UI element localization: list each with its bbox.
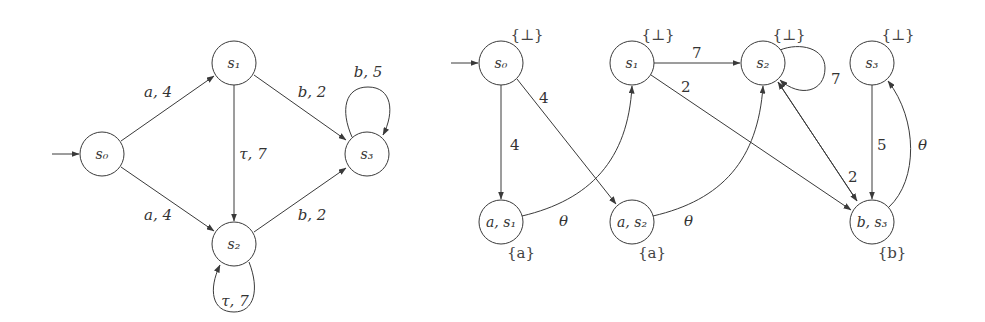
edge-s0-as2 [517,79,616,204]
node-s1: s₁ [212,41,256,85]
edge-label: 4 [539,89,549,107]
left-graph: s₀ s₁ s₂ s₃ a, 4 a, 4 τ, 7 b, 2 b, 2 b, … [52,41,390,312]
node-label: b, s₃ [857,214,888,230]
node-label: a, s₂ [617,214,647,230]
node-label: s₃ [361,146,374,162]
edge-bs3-s3 [888,81,911,207]
edge-label: b, 2 [298,83,327,101]
node-annotation: {a} [507,244,535,262]
node-a-s2: a, s₂ {a} [610,200,666,262]
node-annotation: {b} [878,244,907,262]
right-graph: s₀ {⊥} s₁ {⊥} s₂ {⊥} s₃ {⊥} a, s₁ {a} a,… [451,26,927,262]
node-annotation: {⊥} [510,26,543,44]
edge-s2-loop [780,47,825,91]
node-s2: s₂ [212,222,256,266]
node-annotation: {⊥} [772,26,805,44]
edge-label: τ, 7 [239,145,267,163]
edge-label: 7 [692,44,702,62]
node-s3: s₃ {⊥} [850,26,915,85]
edge-label: a, 4 [144,206,172,224]
node-annotation: {a} [638,244,666,262]
node-annotation: {⊥} [641,26,674,44]
edge-label: b, 2 [298,206,327,224]
edge-as2-s2 [653,86,763,216]
node-s3: s₃ [345,132,389,176]
edge-s3-loop [346,87,390,137]
node-label: s₀ [96,146,109,162]
node-label: s₁ [228,55,241,71]
node-label: s₁ [626,55,639,71]
node-b-s3: b, s₃ {b} [850,200,906,262]
edge-label: a, 4 [144,83,172,101]
node-s2: s₂ {⊥} [741,26,806,85]
edge-label: θ [684,212,693,230]
edge-label: 5 [877,136,887,154]
node-s0: s₀ {⊥} [479,26,544,85]
edge-bs3-s2 [778,82,857,201]
edge-label: θ [559,212,568,230]
edge-label: 2 [681,78,691,96]
node-label: s₃ [866,55,879,71]
node-annotation: {⊥} [881,26,914,44]
edge-label: 7 [831,70,841,88]
node-label: s₂ [757,55,770,71]
edge-label: θ [918,136,927,154]
edge-label: 4 [510,136,520,154]
node-label: a, s₁ [486,214,516,230]
node-label: s₂ [228,236,241,252]
edge-label: b, 5 [354,63,383,81]
node-s1: s₁ {⊥} [610,26,675,85]
diagram-canvas: s₀ s₁ s₂ s₃ a, 4 a, 4 τ, 7 b, 2 b, 2 b, … [0,0,985,322]
edge-label: 2 [848,168,858,186]
node-label: s₀ [495,55,508,71]
node-s0: s₀ [80,132,124,176]
edge-label: τ, 7 [221,292,249,310]
node-a-s1: a, s₁ {a} [479,200,535,262]
